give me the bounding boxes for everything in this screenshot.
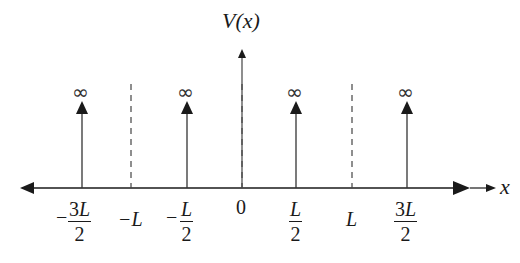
x-axis-right-arrow-icon	[453, 181, 470, 195]
x-axis-small-arrow-icon	[486, 184, 496, 192]
delta-arrow-L-2	[290, 101, 302, 188]
infinity-label-L-2: ∞	[286, 82, 303, 102]
tick-label-L-2: L 2	[289, 199, 302, 244]
tick-numerator: 3L	[68, 199, 91, 222]
numerator-coef: 3	[69, 198, 79, 220]
potential-diagram: V(x) x ∞ ∞ ∞ ∞ − 3L 2 −L − L 2 0 L 2 L 3…	[0, 0, 520, 263]
tick-text: −L	[118, 208, 143, 230]
tick-label-neg-3L-2: 3L 2	[68, 199, 91, 244]
tick-label-neg-L: −L	[118, 208, 143, 231]
y-axis-label-text: V(x)	[222, 8, 260, 33]
tick-denominator: 2	[75, 222, 85, 244]
y-axis-label: V(x)	[222, 8, 260, 34]
numerator-symbol: L	[290, 198, 301, 220]
v-axis-arrow-icon	[238, 49, 246, 58]
infinity-label-neg-3L-2: ∞	[72, 82, 89, 102]
tick-denominator: 2	[401, 222, 411, 244]
numerator-symbol: L	[405, 198, 416, 220]
infinity-label-3L-2: ∞	[397, 82, 414, 102]
delta-arrow-3L-2	[401, 101, 413, 188]
x-axis-label: x	[500, 174, 510, 200]
delta-arrow-neg-L-2	[181, 101, 193, 188]
tick-label-neg-L-2: L 2	[180, 199, 193, 244]
numerator-symbol: L	[181, 198, 192, 220]
tick-denominator: 2	[291, 222, 301, 244]
tick-sign-neg-3L-2: −	[56, 206, 67, 229]
tick-numerator: 3L	[394, 199, 417, 222]
tick-numerator: L	[180, 199, 193, 222]
infinity-label-neg-L-2: ∞	[177, 82, 194, 102]
tick-numerator: L	[289, 199, 302, 222]
delta-arrow-neg-3L-2	[76, 101, 88, 188]
tick-label-0: 0	[236, 196, 246, 219]
tick-label-3L-2: 3L 2	[394, 199, 417, 244]
tick-label-L: L	[346, 208, 357, 231]
numerator-symbol: L	[79, 198, 90, 220]
x-axis-left-arrow-icon	[20, 182, 34, 194]
tick-sign-neg-L-2: −	[166, 206, 177, 229]
tick-denominator: 2	[182, 222, 192, 244]
numerator-coef: 3	[395, 198, 405, 220]
